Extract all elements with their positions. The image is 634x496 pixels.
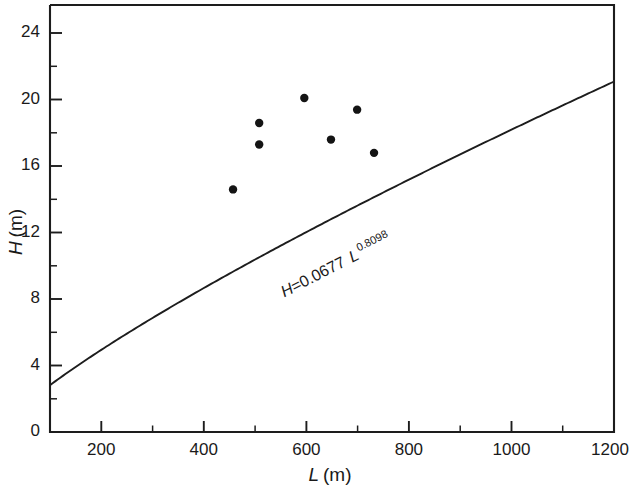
y-tick-label-8: 8 bbox=[31, 288, 40, 307]
equation-coefficient: =0.0677 bbox=[288, 251, 352, 295]
x-tick-label-1000: 1000 bbox=[493, 440, 531, 459]
power-law-fit-curve bbox=[50, 82, 614, 386]
x-axis-title: L(m) bbox=[308, 464, 351, 485]
data-point bbox=[255, 119, 263, 127]
equation-exponent: 0.8098 bbox=[354, 227, 389, 253]
data-point bbox=[229, 185, 237, 193]
y-axis-title-var: H bbox=[5, 241, 26, 255]
chart-figure: 0 4 8 12 16 20 24 200 400 600 800 1000 1… bbox=[0, 0, 634, 496]
data-point bbox=[327, 135, 335, 143]
y-axis-major-ticks bbox=[50, 33, 62, 432]
data-points-group bbox=[229, 94, 378, 194]
data-point bbox=[370, 149, 378, 157]
x-tick-label-1200: 1200 bbox=[591, 440, 629, 459]
y-tick-label-16: 16 bbox=[21, 155, 40, 174]
x-axis-title-var: L bbox=[308, 464, 319, 485]
x-tick-label-200: 200 bbox=[87, 440, 115, 459]
x-tick-label-800: 800 bbox=[395, 440, 423, 459]
y-tick-label-20: 20 bbox=[21, 89, 40, 108]
fit-curve-group bbox=[50, 82, 614, 386]
data-point bbox=[255, 140, 263, 148]
y-axis-title-unit: (m) bbox=[5, 209, 26, 237]
svg-text:H(m): H(m) bbox=[5, 209, 26, 255]
scatter-plot: 0 4 8 12 16 20 24 200 400 600 800 1000 1… bbox=[0, 0, 634, 496]
data-point bbox=[300, 94, 308, 102]
x-tick-label-400: 400 bbox=[190, 440, 218, 459]
y-tick-label-0: 0 bbox=[31, 421, 40, 440]
y-tick-label-4: 4 bbox=[31, 355, 40, 374]
svg-text:L(m): L(m) bbox=[308, 464, 351, 485]
data-point bbox=[353, 105, 361, 113]
y-axis-title: H(m) bbox=[5, 209, 26, 255]
x-tick-label-600: 600 bbox=[292, 440, 320, 459]
x-axis-title-unit: (m) bbox=[323, 464, 351, 485]
x-axis-tick-labels: 200 400 600 800 1000 1200 bbox=[87, 440, 629, 459]
y-tick-label-24: 24 bbox=[21, 22, 40, 41]
